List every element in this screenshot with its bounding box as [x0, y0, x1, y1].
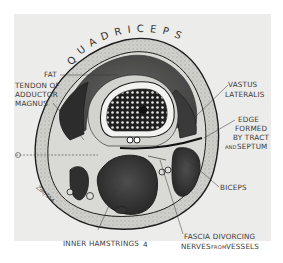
label-edge-line4: SEPTUM — [237, 142, 268, 151]
label-fascia-from: FROM — [211, 244, 226, 250]
label-inner-hamstrings: INNER HAMSTRINGS — [63, 239, 139, 248]
label-page-mark: 4 — [143, 240, 148, 249]
gracilis-muscle — [70, 167, 89, 200]
medullary-center — [139, 106, 147, 114]
label-biceps: BICEPS — [220, 183, 247, 192]
label-tendon-line3: MAGNUS — [15, 99, 48, 108]
label-fat: FAT — [44, 70, 57, 79]
vessel — [134, 137, 140, 143]
sciatic-nerve — [165, 167, 171, 173]
label-edge-and: AND — [225, 144, 237, 150]
vessel-cluster — [115, 207, 127, 214]
label-tendon-line1: TENDON OF — [14, 81, 60, 90]
vessel — [127, 137, 133, 143]
label-edge-line3: BY TRACT — [233, 133, 270, 142]
thigh-cross-section-diagram: QUADRICEPS FAT TENDON OF ADDUCTOR MAGNUS… — [0, 0, 283, 263]
label-vastus-line1: VASTUS — [228, 80, 258, 89]
tendon — [87, 193, 94, 200]
label-tendon-line2: ADDUCTOR — [15, 90, 58, 99]
sciatic-nerve — [159, 169, 165, 175]
label-vastus-line2: LATERALIS — [225, 90, 265, 99]
label-fascia-vessels: VESSELS — [226, 242, 259, 251]
tendon — [67, 189, 73, 195]
label-fascia-line1: FASCIA DIVORCING — [184, 232, 255, 241]
label-edge-line2: FORMED — [235, 124, 268, 133]
label-fascia-nerves: NERVES — [181, 242, 211, 251]
label-edge-line1: EDGE — [238, 115, 259, 124]
